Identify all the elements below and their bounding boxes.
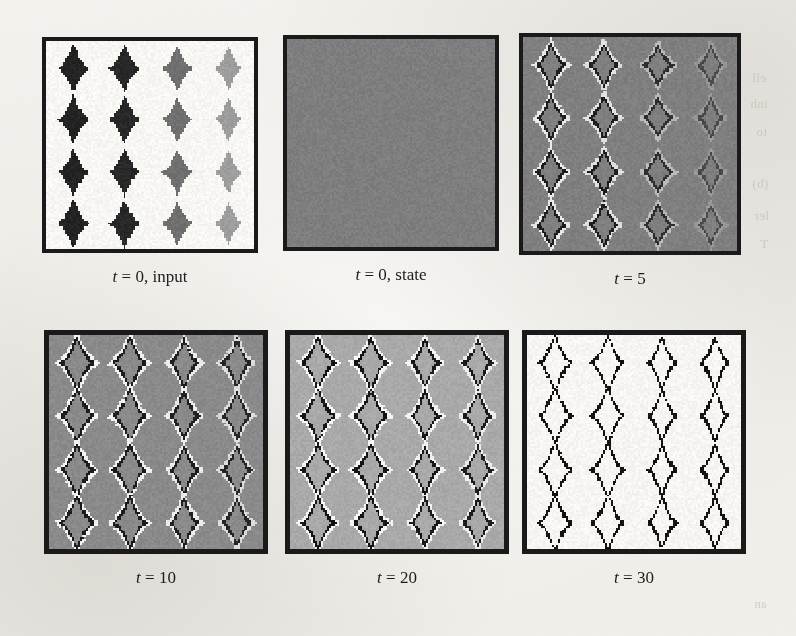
panel-image-t30 bbox=[522, 330, 746, 554]
panel-caption-t30: t = 30 bbox=[522, 568, 746, 588]
panel-image-t5 bbox=[519, 33, 741, 255]
caption-value: = 0, state bbox=[360, 265, 426, 284]
panel-canvas-t5 bbox=[523, 37, 737, 251]
panel-image-t20 bbox=[285, 330, 509, 554]
panel-canvas-t0-state bbox=[287, 39, 495, 247]
caption-value: = 5 bbox=[619, 269, 646, 288]
caption-value: = 20 bbox=[382, 568, 417, 587]
panel-image-t10 bbox=[44, 330, 268, 554]
panel-caption-t10: t = 10 bbox=[44, 568, 268, 588]
panel-canvas-t10 bbox=[49, 335, 263, 549]
panel-canvas-t30 bbox=[527, 335, 741, 549]
caption-value: = 30 bbox=[619, 568, 654, 587]
caption-value: = 0, input bbox=[117, 267, 187, 286]
panel-caption-t0-input: t = 0, input bbox=[42, 267, 258, 287]
figure-panels-container: t = 0, inputt = 0, statet = 5t = 10t = 2… bbox=[0, 0, 796, 636]
caption-value: = 10 bbox=[141, 568, 176, 587]
panel-canvas-t20 bbox=[290, 335, 504, 549]
panel-image-t0-state bbox=[283, 35, 499, 251]
panel-image-t0-input bbox=[42, 37, 258, 253]
panel-caption-t20: t = 20 bbox=[285, 568, 509, 588]
panel-caption-t0-state: t = 0, state bbox=[283, 265, 499, 285]
panel-canvas-t0-input bbox=[46, 41, 254, 249]
panel-caption-t5: t = 5 bbox=[519, 269, 741, 289]
